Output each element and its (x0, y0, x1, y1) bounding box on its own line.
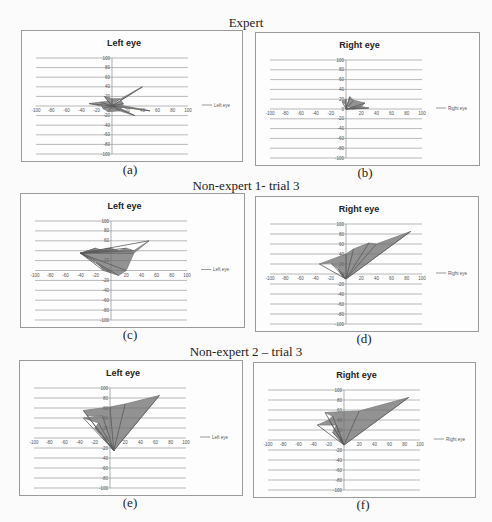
caption-f: (f) (343, 497, 383, 513)
svg-text:20: 20 (123, 440, 129, 445)
svg-text:-80: -80 (46, 440, 53, 445)
svg-text:100: 100 (184, 108, 192, 113)
svg-text:-100: -100 (265, 276, 275, 281)
svg-text:-80: -80 (337, 312, 344, 317)
svg-text:80: 80 (168, 440, 174, 445)
chart-c: Left eye100806040200-20-40-60-80-100-100… (21, 194, 244, 327)
svg-text:-80: -80 (103, 142, 110, 147)
svg-text:-40: -40 (76, 440, 83, 445)
svg-text:20: 20 (359, 111, 365, 116)
svg-text:-20: -20 (328, 276, 335, 281)
svg-text:80: 80 (104, 228, 110, 233)
svg-text:-40: -40 (101, 456, 108, 461)
svg-text:-80: -80 (282, 111, 289, 116)
svg-text:-80: -80 (102, 308, 109, 313)
svg-text:-20: -20 (92, 440, 99, 445)
svg-text:100: 100 (334, 388, 342, 393)
svg-text:80: 80 (170, 108, 176, 113)
svg-text:-60: -60 (337, 302, 344, 307)
svg-text:-60: -60 (297, 111, 304, 116)
svg-text:-100: -100 (30, 273, 40, 278)
svg-text:-80: -80 (282, 276, 289, 281)
chart-title: Left eye (107, 201, 141, 211)
chart-panel-f: Right eye100806040200-20-40-60-80-100-10… (253, 362, 476, 498)
svg-text:100: 100 (336, 222, 344, 227)
svg-text:100: 100 (183, 273, 191, 278)
svg-text:-100: -100 (263, 442, 273, 447)
legend-label: Right eye (446, 437, 466, 442)
svg-text:-100: -100 (101, 152, 111, 157)
legend-label: Left eye (214, 103, 231, 108)
svg-text:-100: -100 (265, 111, 275, 116)
chart-title: Left eye (106, 368, 140, 378)
svg-text:80: 80 (337, 398, 343, 403)
svg-text:-20: -20 (93, 273, 100, 278)
svg-text:-20: -20 (94, 108, 101, 113)
chart-a: Left eye100806040200-20-40-60-80-100-100… (22, 31, 242, 161)
svg-text:-100: -100 (333, 488, 343, 493)
gaze-series (319, 232, 410, 280)
svg-text:-80: -80 (48, 108, 55, 113)
svg-text:-20: -20 (337, 282, 344, 287)
caption-a: (a) (110, 162, 150, 178)
svg-text:-60: -60 (103, 132, 110, 137)
svg-text:-60: -60 (102, 298, 109, 303)
svg-text:80: 80 (339, 232, 345, 237)
svg-text:-20: -20 (335, 448, 342, 453)
caption-d: (d) (344, 331, 384, 347)
svg-text:60: 60 (153, 440, 159, 445)
svg-text:-20: -20 (103, 113, 110, 118)
chart-panel-d: Right eye100806040200-20-40-60-80-100-10… (255, 196, 479, 332)
svg-text:100: 100 (101, 219, 109, 224)
svg-text:-20: -20 (337, 116, 344, 121)
svg-text:-60: -60 (62, 273, 69, 278)
svg-text:-40: -40 (78, 108, 85, 113)
svg-text:20: 20 (359, 276, 365, 281)
svg-text:-60: -60 (337, 136, 344, 141)
svg-text:-40: -40 (312, 111, 319, 116)
svg-text:40: 40 (105, 84, 111, 89)
gaze-series (317, 398, 408, 446)
svg-text:80: 80 (169, 273, 175, 278)
svg-text:-100: -100 (99, 486, 109, 491)
svg-text:-40: -40 (77, 273, 84, 278)
svg-text:-100: -100 (335, 156, 345, 161)
svg-text:-40: -40 (337, 126, 344, 131)
svg-text:-20: -20 (102, 278, 109, 283)
svg-text:60: 60 (389, 276, 395, 281)
svg-text:60: 60 (389, 111, 395, 116)
svg-text:80: 80 (105, 65, 111, 70)
chart-title: Right eye (339, 204, 380, 214)
svg-text:60: 60 (339, 242, 345, 247)
chart-panel-b: Right eye100806040200-20-40-60-80-100-10… (255, 32, 480, 166)
svg-text:80: 80 (404, 111, 410, 116)
svg-text:40: 40 (374, 111, 380, 116)
svg-text:100: 100 (418, 111, 426, 116)
svg-text:-40: -40 (102, 288, 109, 293)
svg-text:-40: -40 (335, 458, 342, 463)
caption-e: (e) (110, 495, 150, 511)
legend-label: Left eye (212, 435, 229, 440)
svg-text:-100: -100 (100, 318, 110, 323)
legend-label: Left eye (213, 267, 230, 272)
svg-text:-60: -60 (295, 442, 302, 447)
svg-text:-100: -100 (335, 322, 345, 327)
svg-text:-60: -60 (335, 468, 342, 473)
svg-text:-40: -40 (312, 276, 319, 281)
svg-text:-60: -60 (61, 440, 68, 445)
svg-text:100: 100 (416, 442, 424, 447)
caption-b: (b) (345, 165, 385, 181)
svg-text:100: 100 (336, 58, 344, 63)
chart-panel-e: Left eye100806040200-20-40-60-80-100-100… (19, 360, 243, 496)
chart-e: Left eye100806040200-20-40-60-80-100-100… (20, 361, 242, 495)
section-title-expert: Expert (0, 15, 492, 31)
svg-text:60: 60 (155, 108, 161, 113)
svg-text:20: 20 (124, 273, 130, 278)
svg-text:-80: -80 (335, 478, 342, 483)
svg-text:40: 40 (372, 442, 378, 447)
svg-text:100: 100 (100, 386, 108, 391)
chart-title: Right eye (336, 370, 377, 380)
svg-text:-40: -40 (310, 442, 317, 447)
svg-text:80: 80 (103, 396, 109, 401)
caption-c: (c) (110, 327, 150, 343)
